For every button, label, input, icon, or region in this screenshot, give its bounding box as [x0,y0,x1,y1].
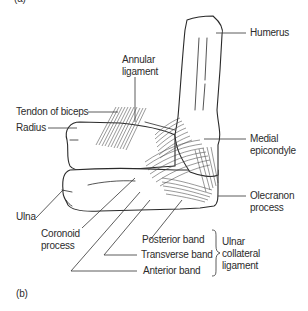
ulna-bone [63,169,218,212]
label-transverse-band: Transverse band [141,249,213,261]
label-ulnar-collateral-ligament: Ulnar collateral ligament [222,236,260,272]
label-posterior-band: Posterior band [142,234,204,246]
ucl-brace [212,230,220,276]
label-anterior-band: Anterior band [143,265,200,277]
panel-label-a: (a) [14,0,26,5]
label-olecranon-process: Olecranon process [250,190,294,214]
label-medial-epicondyle: Medial epicondyle [250,133,296,157]
label-coronoid-process: Coronoid process [41,228,80,252]
elbow-ligament-diagram: (a) Humerus Annular ligament Tendon of b… [0,0,308,311]
label-tendon-of-biceps: Tendon of biceps [16,106,88,118]
radius-bone [66,122,175,171]
label-ulna: Ulna [16,211,36,223]
panel-label-b: (b) [16,288,28,300]
label-annular-ligament: Annular ligament [122,54,158,78]
label-humerus: Humerus [250,27,289,39]
label-radius: Radius [16,122,46,134]
